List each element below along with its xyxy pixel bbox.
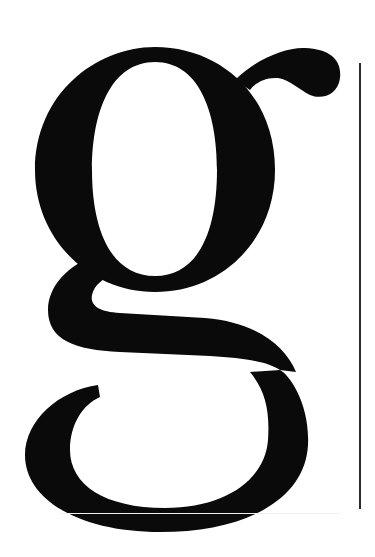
specimen-canvas: g bbox=[0, 0, 375, 557]
baseline-shadow bbox=[60, 513, 340, 514]
vertical-rule bbox=[359, 63, 361, 509]
serif-g-glyph-icon bbox=[0, 0, 375, 557]
upper-bowl bbox=[35, 47, 275, 292]
lower-loop bbox=[25, 370, 308, 532]
neck bbox=[48, 252, 296, 372]
ear bbox=[235, 48, 340, 97]
